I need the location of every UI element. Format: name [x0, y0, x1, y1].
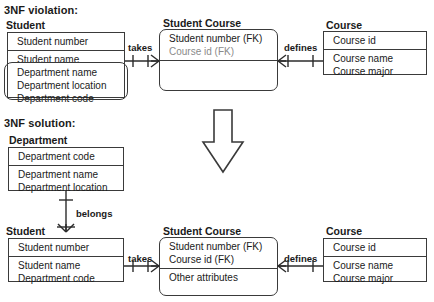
connector-defines-violation: [278, 55, 323, 67]
attr-student-number-fk: Student number (FK): [160, 240, 277, 253]
attr-group-nonkey: Student name Department code: [9, 256, 123, 288]
entity-student-violation[interactable]: Student number Student name Department n…: [7, 32, 125, 98]
attr-student-number: Student number: [9, 241, 123, 254]
entity-course-violation[interactable]: Course id Course name Course major: [323, 31, 427, 75]
entity-course-solution[interactable]: Course id Course name Course major: [323, 238, 427, 282]
attr-student-number: Student number: [8, 35, 124, 48]
relationship-label-takes-solution: takes: [127, 253, 153, 264]
attr-department-location: Department location: [9, 181, 123, 194]
entity-title-student-course-violation: Student Course: [163, 17, 241, 29]
relationship-label-takes-violation: takes: [127, 42, 153, 53]
attr-other-attributes: Other attributes: [160, 271, 277, 284]
entity-title-course-violation: Course: [326, 19, 362, 31]
attr-department-code: Department code: [9, 150, 123, 163]
attr-group-key: Course id: [324, 239, 426, 256]
attr-group-nonkey: Course name Course major: [324, 256, 426, 288]
attr-group-key: Student number: [8, 33, 124, 50]
attr-department-location: Department location: [8, 79, 124, 92]
attr-group-nonkey-empty: [160, 60, 277, 89]
attr-group-nonkey: Department name Department location: [9, 165, 123, 197]
attr-course-id-fk: Course id (FK): [160, 45, 277, 58]
attr-course-id: Course id: [324, 241, 426, 254]
section-title-violation: 3NF violation:: [4, 4, 78, 16]
attr-course-id: Course id: [324, 34, 426, 47]
transformation-arrow-icon: [203, 110, 243, 172]
attr-student-number-fk: Student number (FK): [160, 32, 277, 45]
relationship-label-belongs: belongs: [75, 208, 113, 219]
attr-student-name: Student name: [9, 259, 123, 272]
attr-group-nonkey: Course name Course major: [324, 49, 426, 81]
entity-title-student-violation: Student: [6, 19, 45, 31]
er-diagram-canvas: 3NF violation: Student Student number St…: [0, 0, 434, 302]
entity-title-student-solution: Student: [6, 225, 45, 237]
attr-group-nonkey: Other attributes: [160, 268, 277, 287]
attr-group-key: Student number: [9, 239, 123, 256]
connector-belongs: [57, 191, 75, 232]
attr-student-name: Student name: [8, 53, 124, 66]
relationship-label-defines-solution: defines: [283, 253, 318, 264]
entity-student-solution[interactable]: Student number Student name Department c…: [8, 238, 124, 282]
relationship-label-defines-violation: defines: [283, 42, 318, 53]
attr-group-key: Department code: [9, 148, 123, 165]
entity-student-course-solution[interactable]: Student number (FK) Course id (FK) Other…: [159, 237, 278, 296]
attr-course-name: Course name: [324, 52, 426, 65]
attr-department-code-fk: Department code: [9, 272, 123, 285]
attr-department-code: Department code: [8, 92, 124, 105]
attr-group-key: Student number (FK) Course id (FK): [160, 238, 277, 268]
entity-department[interactable]: Department code Department name Departme…: [8, 147, 124, 191]
attr-course-id-fk: Course id (FK): [160, 253, 277, 266]
attr-course-major: Course major: [324, 272, 426, 285]
attr-department-name: Department name: [9, 168, 123, 181]
attr-group-key: Course id: [324, 32, 426, 49]
attr-group-key: Student number (FK) Course id (FK): [160, 30, 277, 60]
entity-title-student-course-solution: Student Course: [163, 225, 241, 237]
entity-title-course-solution: Course: [326, 225, 362, 237]
attr-group-nonkey: Student name Department name Department …: [8, 50, 124, 108]
attr-course-major: Course major: [324, 65, 426, 78]
attr-department-name: Department name: [8, 66, 124, 79]
attr-course-name: Course name: [324, 259, 426, 272]
section-title-solution: 3NF solution:: [4, 117, 76, 129]
entity-student-course-violation[interactable]: Student number (FK) Course id (FK): [159, 29, 278, 91]
entity-title-department: Department: [9, 134, 67, 146]
connector-takes-violation: [125, 55, 159, 67]
